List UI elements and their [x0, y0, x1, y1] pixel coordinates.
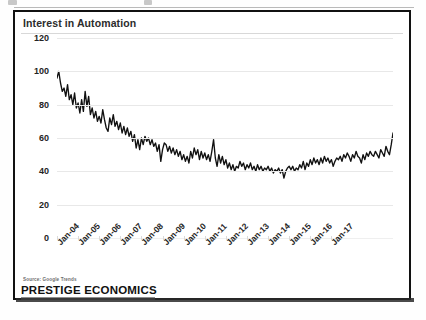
y-tick-label-60: 60 — [39, 133, 49, 143]
source-note: Source: Google Trends — [23, 277, 77, 282]
scan-artifact-right — [144, 0, 152, 5]
gridline-100 — [57, 71, 393, 72]
brand-wordmark: PRESTIGE ECONOMICS — [21, 284, 157, 296]
gridline-40 — [57, 171, 393, 172]
y-axis-labels: 020406080100120 — [15, 38, 53, 238]
y-tick-label-0: 0 — [44, 233, 49, 243]
chart-title: Interest in Automation — [23, 17, 136, 29]
page-top-rule — [14, 7, 414, 8]
gridline-20 — [57, 205, 393, 206]
y-tick-label-40: 40 — [39, 166, 49, 176]
y-tick-label-20: 20 — [39, 200, 49, 210]
title-divider — [21, 33, 403, 34]
gridline-60 — [57, 138, 393, 139]
slide-shadow — [16, 298, 414, 302]
screenshot-root: Interest in Automation 020406080100120 J… — [0, 0, 426, 320]
y-tick-label-100: 100 — [34, 66, 49, 76]
gridline-80 — [57, 105, 393, 106]
x-axis-labels: Jan-04Jan-05Jan-06Jan-07Jan-08Jan-09Jan-… — [57, 240, 393, 286]
plot-area — [57, 38, 393, 238]
y-tick-label-80: 80 — [39, 100, 49, 110]
y-tick-label-120: 120 — [34, 33, 49, 43]
gridline-120 — [57, 38, 393, 39]
scan-artifact-left — [8, 0, 17, 5]
chart-slide: Interest in Automation 020406080100120 J… — [13, 10, 411, 300]
